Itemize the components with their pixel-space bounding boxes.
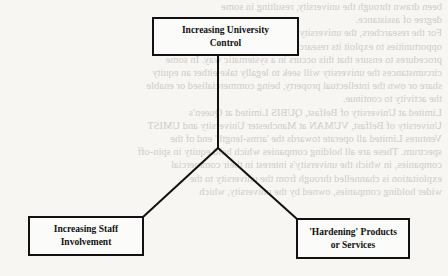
node-label-line: Control	[210, 37, 242, 50]
node-hardening-products-or-services: 'Hardening' Products or Services	[296, 218, 410, 259]
node-label-line: Increasing Staff	[54, 223, 118, 236]
left-branch-line	[143, 148, 218, 217]
node-label-line: Involvement	[61, 236, 112, 249]
right-branch-line	[218, 148, 297, 219]
node-label-line: or Services	[331, 239, 375, 252]
node-increasing-staff-involvement: Increasing Staff Involvement	[28, 216, 144, 256]
node-label-line: 'Hardening' Products	[309, 226, 397, 239]
node-increasing-university-control: Increasing University Control	[152, 17, 299, 56]
node-label-line: Increasing University	[182, 24, 269, 37]
